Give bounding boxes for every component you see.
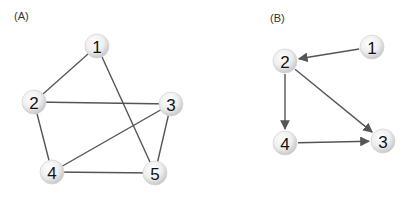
node-1: 1	[85, 34, 109, 58]
node-4: 4	[273, 131, 297, 155]
graph-panel-b: (B)1234	[270, 12, 395, 155]
node-3: 3	[371, 129, 395, 153]
arrow-edge-4-3	[298, 141, 369, 142]
node-label: 5	[150, 165, 159, 184]
node-label: 4	[47, 164, 56, 183]
node-2: 2	[273, 49, 297, 73]
node-2: 2	[22, 90, 46, 114]
edge-1-2	[34, 46, 97, 102]
edge-4-5	[52, 172, 155, 173]
node-4: 4	[40, 160, 64, 184]
edge-1-5	[97, 46, 155, 173]
node-label: 3	[166, 96, 175, 115]
node-label: 3	[378, 133, 387, 152]
panel-label: (A)	[14, 10, 29, 22]
node-label: 2	[280, 53, 289, 72]
node-3: 3	[159, 92, 183, 116]
graph-diagram-canvas: (A)12345(B)1234	[0, 0, 411, 197]
arrow-edge-2-3	[295, 69, 372, 132]
node-label: 2	[29, 94, 38, 113]
node-label: 1	[92, 38, 101, 57]
node-5: 5	[143, 161, 167, 185]
node-1: 1	[360, 35, 384, 59]
edge-2-3	[34, 102, 171, 104]
node-label: 4	[280, 135, 289, 154]
node-label: 1	[367, 39, 376, 58]
arrow-edge-1-2	[299, 49, 359, 59]
panel-label: (B)	[270, 12, 285, 24]
graph-panel-a: (A)12345	[14, 10, 183, 185]
